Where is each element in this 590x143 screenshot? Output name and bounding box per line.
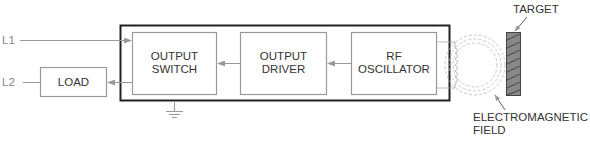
electromagnetic-field-icon xyxy=(445,35,505,95)
ground-icon xyxy=(166,101,183,118)
terminal-l2: L2 xyxy=(2,76,15,89)
coil-icon xyxy=(437,42,458,88)
target-plate xyxy=(507,33,521,96)
target-label: TARGET xyxy=(513,3,559,16)
terminal-l1: L1 xyxy=(2,34,15,47)
field-pointer xyxy=(495,95,505,110)
output-switch-label: OUTPUT SWITCH xyxy=(132,50,217,76)
load-label: LOAD xyxy=(40,76,107,89)
target-pointer xyxy=(515,17,527,31)
output-driver-label: OUTPUT DRIVER xyxy=(240,50,327,76)
rf-oscillator-label: RF OSCILLATOR xyxy=(351,50,437,76)
field-label: ELECTROMAGNETIC FIELD xyxy=(473,111,588,137)
